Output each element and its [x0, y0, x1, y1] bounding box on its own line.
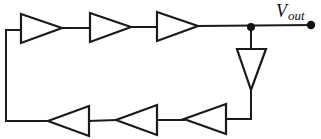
wire-buffer-inv5	[226, 90, 251, 119]
inverter-5-icon	[184, 104, 226, 134]
inverter-2-icon	[90, 13, 131, 42]
inverter-4-icon	[237, 49, 266, 90]
vout-label: Vout	[276, 1, 305, 22]
vout-terminal-dot-icon	[307, 21, 315, 29]
wire-inv6-inv7	[89, 120, 116, 121]
feedback-wire	[6, 30, 48, 121]
inverter-3-icon	[157, 12, 198, 41]
vout-label-subscript: out	[288, 8, 305, 23]
ring-oscillator-diagram	[0, 0, 321, 139]
inverter-1-icon	[21, 14, 62, 43]
inverter-7-icon	[48, 106, 89, 136]
vout-label-main: V	[276, 1, 287, 21]
junction-dot-icon	[247, 23, 255, 31]
inverter-6-icon	[116, 105, 157, 135]
